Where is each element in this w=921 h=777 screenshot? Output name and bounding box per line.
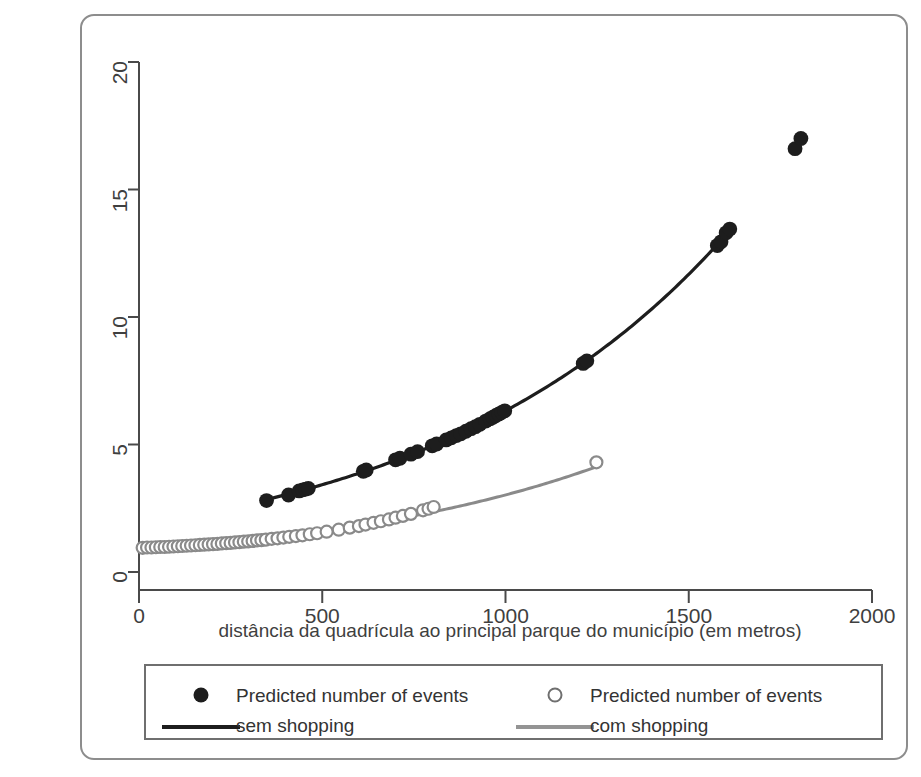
legend-label-com-shopping-line2: com shopping xyxy=(590,715,708,737)
axes-lines xyxy=(128,62,872,603)
legend-marker-sem-shopping xyxy=(190,684,212,710)
y-tick-label: 20 xyxy=(108,61,132,101)
legend-label-com-shopping-line1: Predicted number of events xyxy=(590,685,822,707)
x-axis-ticks xyxy=(139,590,872,603)
legend-marker-com-shopping xyxy=(544,684,566,710)
y-tick-label: 15 xyxy=(108,189,132,229)
chart-legend: Predicted number of events sem shopping … xyxy=(144,664,883,740)
legend-line-sem-shopping xyxy=(160,718,242,736)
legend-label-sem-shopping-line1: Predicted number of events xyxy=(236,685,468,707)
legend-label-sem-shopping-line2: sem shopping xyxy=(236,715,354,737)
legend-line-com-shopping xyxy=(514,718,596,736)
x-axis-title: distância da quadrícula ao principal par… xyxy=(148,620,872,642)
series-markers xyxy=(137,131,809,554)
y-tick-label: 10 xyxy=(108,316,132,356)
chart-plot-area xyxy=(0,0,921,777)
chart-figure: 051015200500100015002000 distância da qu… xyxy=(0,0,921,777)
y-tick-label: 5 xyxy=(108,444,132,484)
